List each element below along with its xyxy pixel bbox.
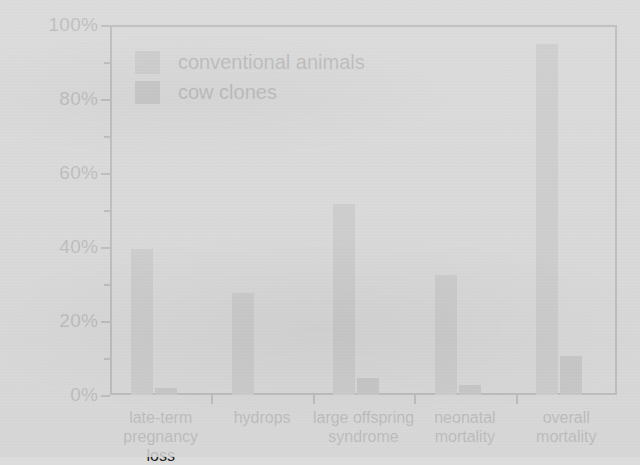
x-category-label: hydrops (211, 408, 312, 427)
bar-conventional-animals (131, 249, 153, 395)
y-tick-major (101, 99, 110, 101)
bar-cow-clones (560, 356, 582, 395)
x-category-label-line: syndrome (313, 427, 414, 446)
bar-conventional-animals (536, 44, 558, 396)
bar-cow-clones (357, 378, 379, 395)
y-tick-label: 0% (70, 384, 98, 406)
y-tick-minor (104, 358, 110, 360)
x-category-label-line: neonatal (414, 408, 515, 427)
chart-legend: conventional animals cow clones (135, 47, 365, 107)
x-category-label: neonatalmortality (414, 408, 515, 446)
y-tick-major (101, 321, 110, 323)
bar-conventional-animals (435, 275, 457, 395)
bar-cow-clones (459, 385, 481, 395)
x-category-label: overall mortality (516, 408, 617, 446)
y-tick-label: 60% (59, 162, 98, 184)
bar-cow-clones (155, 388, 177, 395)
y-tick-minor (104, 62, 110, 64)
legend-swatch-icon-conventional-animals (135, 51, 160, 74)
y-tick-minor (104, 136, 110, 138)
x-category-label-line: large offspring (313, 408, 414, 427)
y-tick-major (101, 173, 110, 175)
x-category-label-line: hydrops (211, 408, 312, 427)
x-category-label-line: mortality (414, 427, 515, 446)
plot-area: 0%20%40%60%80%100% late-termpregnancy lo… (110, 25, 617, 395)
y-tick-label: 80% (59, 88, 98, 110)
y-tick-major (101, 395, 110, 397)
x-category-label: large offspringsyndrome (313, 408, 414, 446)
x-tick (414, 395, 416, 404)
y-tick-minor (104, 284, 110, 286)
legend-swatch-icon-cow-clones (135, 81, 160, 104)
x-tick (516, 395, 518, 404)
y-tick-label: 100% (49, 14, 98, 36)
y-tick-major (101, 25, 110, 27)
y-tick-label: 20% (59, 310, 98, 332)
x-tick (313, 395, 315, 404)
x-tick (211, 395, 213, 404)
y-tick-label: 40% (59, 236, 98, 258)
x-category-label-line: overall mortality (516, 408, 617, 446)
legend-item-conventional-animals: conventional animals (135, 47, 365, 77)
bar-conventional-animals (333, 204, 355, 395)
legend-label-conventional-animals: conventional animals (178, 51, 365, 74)
legend-label-cow-clones: cow clones (178, 81, 277, 104)
y-tick-major (101, 247, 110, 249)
x-category-label-line: late-term (110, 408, 211, 427)
x-category-label-line: pregnancy loss (110, 427, 211, 465)
bar-conventional-animals (232, 293, 254, 395)
legend-item-cow-clones: cow clones (135, 77, 365, 107)
y-tick-minor (104, 210, 110, 212)
x-category-label: late-termpregnancy loss (110, 408, 211, 465)
